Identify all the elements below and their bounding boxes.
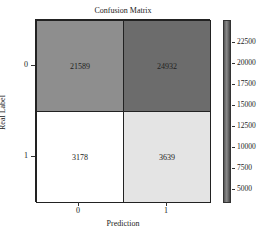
colorbar-tick-line <box>232 84 235 85</box>
colorbar-tick-label: 5000 <box>237 184 252 193</box>
colorbar-tick-line <box>232 168 235 169</box>
colorbar-tick-line <box>232 189 235 190</box>
chart-title: Confusion Matrix <box>35 6 211 15</box>
colorbar-tick-label: 17500 <box>237 79 256 88</box>
x-axis-label: Prediction <box>35 219 211 228</box>
colorbar-tick-label: 22500 <box>237 37 256 46</box>
colorbar-tick-label: 10000 <box>237 142 256 151</box>
y-tick-0: 0 <box>24 60 28 69</box>
colorbar-tick-line <box>232 147 235 148</box>
colorbar <box>223 20 231 203</box>
colorbar-tick-line <box>232 63 235 64</box>
x-tick-0: 0 <box>76 206 80 215</box>
colorbar-tick-line <box>232 126 235 127</box>
y-tick-line-0 <box>31 65 35 66</box>
heatmap-plot: 21589 24932 3178 3639 <box>35 19 210 202</box>
y-tick-1: 1 <box>24 151 28 160</box>
cell-0-0: 21589 <box>36 20 124 112</box>
colorbar-tick-line <box>232 105 235 106</box>
colorbar-tick-label: 12500 <box>237 121 256 130</box>
cell-1-0: 3178 <box>36 111 124 203</box>
colorbar-tick-label: 7500 <box>237 163 252 172</box>
x-tick-1: 1 <box>164 206 168 215</box>
colorbar-tick-label: 20000 <box>237 58 256 67</box>
y-tick-line-1 <box>31 156 35 157</box>
colorbar-tick-label: 15000 <box>237 100 256 109</box>
cell-1-1: 3639 <box>123 111 211 203</box>
y-axis-label: Real Label <box>0 95 7 130</box>
cell-0-1: 24932 <box>123 20 211 112</box>
colorbar-tick-line <box>232 42 235 43</box>
